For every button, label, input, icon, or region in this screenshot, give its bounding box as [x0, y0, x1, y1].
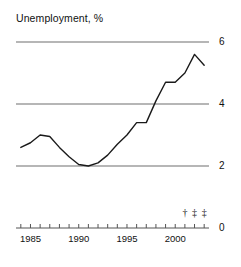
y-tick-label-2: 2 [219, 160, 225, 171]
x-tick-label-2000: 2000 [165, 233, 186, 244]
x-tick-label-1990: 1990 [68, 233, 89, 244]
y-tick-label-4: 4 [219, 98, 225, 109]
chart-plot-area [0, 0, 241, 267]
x-tick-label-1995: 1995 [116, 233, 137, 244]
y-tick-label-6: 6 [219, 36, 225, 47]
gridlines-group [16, 42, 209, 166]
footnote-mark-1: † [182, 207, 187, 218]
footnote-mark-2: ‡ [192, 207, 197, 218]
x-tick-label-1985: 1985 [20, 233, 41, 244]
series-unemployment-path [21, 54, 204, 166]
x-axis-group [16, 224, 209, 228]
data-series-line [21, 54, 204, 166]
y-tick-label-0: 0 [219, 222, 225, 233]
footnote-mark-3: ‡ [202, 207, 207, 218]
unemployment-chart-figure: Unemployment, % 6420 1985199019952000 †‡… [0, 0, 241, 267]
